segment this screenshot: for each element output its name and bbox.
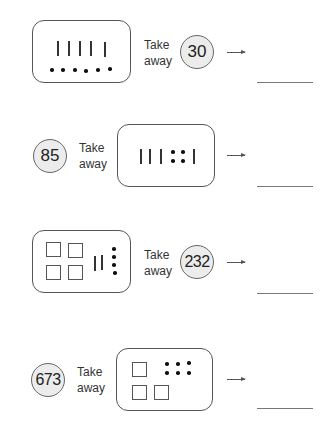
- ones-dot: [84, 69, 88, 73]
- ones-dot: [50, 68, 54, 72]
- ones-dot: [187, 371, 191, 375]
- ones-dot: [112, 255, 116, 259]
- tens-rod: [57, 41, 59, 56]
- ones-dot: [181, 150, 185, 154]
- take-word: Take: [77, 364, 105, 380]
- hundreds-square: [68, 265, 83, 280]
- tens-rod: [94, 256, 96, 271]
- ones-dot: [176, 362, 180, 366]
- tens-rod: [140, 149, 142, 164]
- ones-dot: [61, 68, 65, 72]
- tens-rod: [149, 149, 151, 164]
- tens-rod: [101, 255, 103, 270]
- base-ten-blocks-box: [116, 348, 213, 411]
- hundreds-square: [132, 362, 147, 377]
- tens-rod: [79, 41, 81, 56]
- hundreds-square: [154, 385, 169, 400]
- subtrahend-circle: 232: [180, 245, 214, 279]
- answer-blank[interactable]: [257, 293, 313, 294]
- hundreds-square: [46, 265, 61, 280]
- ones-dot: [112, 247, 116, 251]
- ones-dot: [171, 150, 175, 154]
- ones-dot: [112, 263, 116, 267]
- answer-blank[interactable]: [257, 186, 313, 187]
- answer-blank[interactable]: [257, 82, 313, 83]
- ones-dot: [108, 67, 112, 71]
- ones-dot: [73, 68, 77, 72]
- ones-dot: [165, 371, 169, 375]
- subtrahend-circle: 30: [180, 35, 214, 69]
- base-ten-blocks-box: [32, 20, 131, 83]
- answer-blank[interactable]: [257, 408, 313, 409]
- ones-dot: [171, 159, 175, 163]
- ones-dot: [181, 159, 185, 163]
- base-ten-blocks-box: [117, 124, 215, 187]
- ones-dot: [96, 68, 100, 72]
- away-word: away: [144, 53, 172, 69]
- take-word: Take: [79, 140, 107, 156]
- minuend-circle: 85: [33, 139, 67, 173]
- tens-rod: [68, 41, 70, 56]
- take-away-label: Take away: [144, 247, 172, 279]
- take-away-label: Take away: [79, 140, 107, 172]
- right-arrow-icon: [227, 52, 245, 53]
- ones-dot: [165, 362, 169, 366]
- tens-rod: [160, 149, 162, 164]
- tens-rod: [90, 41, 92, 56]
- tens-rod: [104, 42, 106, 57]
- right-arrow-icon: [227, 262, 245, 263]
- ones-dot: [113, 271, 117, 275]
- hundreds-square: [132, 385, 147, 400]
- take-away-label: Take away: [77, 364, 105, 396]
- take-away-label: Take away: [144, 37, 172, 69]
- away-word: away: [77, 380, 105, 396]
- tens-rod: [193, 149, 195, 164]
- minuend-circle: 673: [31, 363, 65, 397]
- right-arrow-icon: [227, 379, 245, 380]
- away-word: away: [144, 263, 172, 279]
- ones-dot: [176, 371, 180, 375]
- away-word: away: [79, 156, 107, 172]
- hundreds-square: [46, 242, 61, 257]
- hundreds-square: [68, 243, 83, 258]
- take-word: Take: [144, 37, 172, 53]
- base-ten-blocks-box: [32, 230, 131, 293]
- take-word: Take: [144, 247, 172, 263]
- ones-dot: [187, 361, 191, 365]
- right-arrow-icon: [227, 155, 245, 156]
